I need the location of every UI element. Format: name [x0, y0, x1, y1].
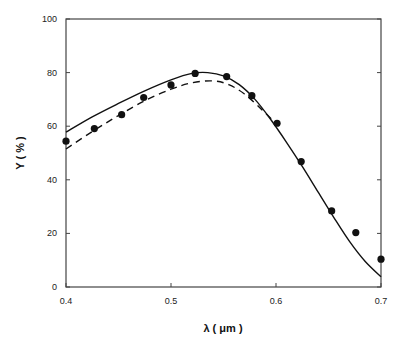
y-tick-label: 80 — [47, 68, 57, 78]
markers — [62, 70, 384, 263]
x-tick-label: 0.6 — [270, 296, 283, 306]
y-tick-label: 60 — [47, 121, 57, 131]
y-tick-label: 0 — [52, 282, 57, 292]
data-point — [167, 81, 174, 88]
data-point — [118, 111, 125, 118]
data-point — [377, 256, 384, 263]
x-tick-label: 0.7 — [375, 296, 388, 306]
x-tick-label: 0.4 — [60, 296, 73, 306]
data-point — [62, 138, 69, 145]
data-point — [192, 70, 199, 77]
data-point — [352, 229, 359, 236]
chart: 0204060801000.40.50.60.7 λ ( μm ) Y ( % … — [0, 0, 404, 353]
data-point — [223, 73, 230, 80]
y-tick-label: 100 — [42, 14, 57, 24]
x-tick-label: 0.5 — [165, 296, 178, 306]
data-point — [328, 207, 335, 214]
data-point — [248, 92, 255, 99]
y-axis-title: Y ( % ) — [14, 136, 26, 170]
y-tick-label: 40 — [47, 175, 57, 185]
plot-frame — [66, 19, 381, 287]
data-point — [91, 125, 98, 132]
data-point — [273, 120, 280, 127]
x-axis-title: λ ( μm ) — [203, 322, 242, 334]
data-point — [140, 94, 147, 101]
data-point — [298, 158, 305, 165]
curves — [66, 72, 381, 276]
solid-curve — [66, 72, 381, 276]
dashed-curve — [66, 81, 276, 149]
y-tick-label: 20 — [47, 228, 57, 238]
ticks: 0204060801000.40.50.60.7 — [42, 14, 387, 306]
